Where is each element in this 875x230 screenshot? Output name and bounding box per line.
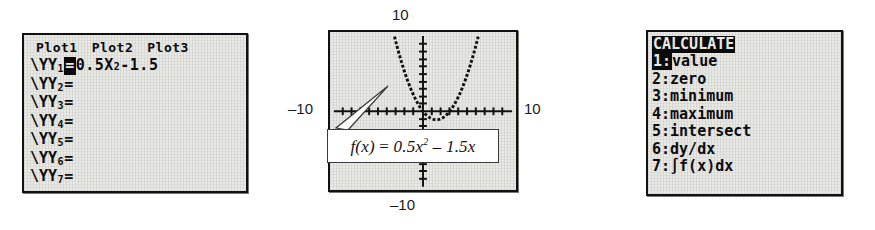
y-row-y2[interactable]: \YY2= xyxy=(30,76,240,95)
calculate-menu-title: CALCULATE xyxy=(652,36,735,53)
plot-tab-row: Plot1 Plot2 Plot3 xyxy=(36,40,240,55)
y-row-name-y2: Y xyxy=(48,76,58,94)
menu-item-maximum[interactable]: 4:maximum xyxy=(652,106,837,124)
plot-tab-plot1[interactable]: Plot1 xyxy=(36,40,78,55)
formula-callout-text: f(x) = 0.5x2 – 1.5x xyxy=(350,136,475,157)
y-row-expression-y1-suffix[interactable]: -1.5 xyxy=(120,57,158,75)
axis-label-x-min: –10 xyxy=(288,100,313,117)
calculate-menu-screen: CALCULATE 1:value 2:zero 3:minimum 4:max… xyxy=(646,30,843,196)
y-row-name-y7: Y xyxy=(48,168,58,186)
plot-tab-plot2[interactable]: Plot2 xyxy=(92,40,134,55)
y-row-y3[interactable]: \YY3= xyxy=(30,94,240,113)
y-row-name-y6: Y xyxy=(48,150,58,168)
graph-figure: 10 –10 10 –10 xyxy=(288,0,588,230)
y-row-equals-y2[interactable]: = xyxy=(64,76,74,94)
y-row-equals-y1[interactable]: = xyxy=(64,57,76,75)
menu-item-label-2: zero xyxy=(670,70,706,88)
y-row-equals-y4[interactable]: = xyxy=(64,113,74,131)
menu-item-number-6: 6: xyxy=(652,140,670,158)
menu-item-label-1: value xyxy=(672,52,717,70)
y-row-label-y4: \Y xyxy=(30,113,48,131)
y-row-equals-y3[interactable]: = xyxy=(64,94,74,112)
menu-item-label-3: minimum xyxy=(670,87,733,105)
formula-minus: – xyxy=(433,136,442,155)
y-row-y7[interactable]: \YY7= xyxy=(30,168,240,187)
formula-term-b: 1.5x xyxy=(446,136,476,155)
y-row-label-y5: \Y xyxy=(30,131,48,149)
y-row-equals-y6[interactable]: = xyxy=(64,150,74,168)
y-row-label-y6: \Y xyxy=(30,150,48,168)
menu-item-label-6: dy/dx xyxy=(670,140,715,158)
menu-item-number-2: 2: xyxy=(652,70,670,88)
y-row-equals-y5[interactable]: = xyxy=(64,131,74,149)
axis-label-y-max: 10 xyxy=(392,6,409,23)
menu-item-number-3: 3: xyxy=(652,87,670,105)
y-row-expression-y1-prefix[interactable]: 0.5X xyxy=(76,57,114,75)
y-row-label-y2: \Y xyxy=(30,76,48,94)
y-row-index-y7: 7 xyxy=(58,171,65,189)
formula-callout-box: f(x) = 0.5x2 – 1.5x xyxy=(327,129,499,163)
y-row-y4[interactable]: \YY4= xyxy=(30,113,240,132)
menu-item-integral[interactable]: 7:∫f(x)dx xyxy=(652,158,837,176)
axis-label-x-max: 10 xyxy=(524,100,541,117)
menu-item-value[interactable]: 1:value xyxy=(652,53,837,71)
y-editor-screen: Plot1 Plot2 Plot3 \YY1=0.5X2-1.5 \YY2= \… xyxy=(22,33,248,193)
y-row-name-y4: Y xyxy=(48,113,58,131)
y-row-equals-y7[interactable]: = xyxy=(64,168,74,186)
menu-item-zero[interactable]: 2:zero xyxy=(652,71,837,89)
y-row-y6[interactable]: \YY6= xyxy=(30,150,240,169)
y-row-name-y3: Y xyxy=(48,94,58,112)
y-row-label-y7: \Y xyxy=(30,168,48,186)
y-row-name-y1: Y xyxy=(48,57,58,75)
callout-leader-lines xyxy=(326,84,426,134)
formula-fx: f(x) xyxy=(350,136,374,155)
menu-item-dydx[interactable]: 6:dy/dx xyxy=(652,141,837,159)
menu-item-number-1: 1: xyxy=(652,52,672,70)
menu-item-label-4: maximum xyxy=(670,105,733,123)
y-row-label-y1: \Y xyxy=(30,57,48,75)
menu-item-label-7: ∫f(x)dx xyxy=(670,157,733,175)
menu-item-label-5: intersect xyxy=(670,122,751,140)
axis-label-y-min: –10 xyxy=(390,196,415,213)
plot-tab-plot3[interactable]: Plot3 xyxy=(147,40,189,55)
menu-item-minimum[interactable]: 3:minimum xyxy=(652,88,837,106)
y-row-name-y5: Y xyxy=(48,131,58,149)
y-row-y5[interactable]: \YY5= xyxy=(30,131,240,150)
menu-item-number-7: 7: xyxy=(652,157,670,175)
y-row-label-y3: \Y xyxy=(30,94,48,112)
formula-term-a: 0.5x xyxy=(394,136,424,155)
y-row-y1[interactable]: \YY1=0.5X2-1.5 xyxy=(30,57,240,76)
menu-item-intersect[interactable]: 5:intersect xyxy=(652,123,837,141)
formula-equals: = xyxy=(379,136,389,155)
menu-item-number-5: 5: xyxy=(652,122,670,140)
menu-item-number-4: 4: xyxy=(652,105,670,123)
